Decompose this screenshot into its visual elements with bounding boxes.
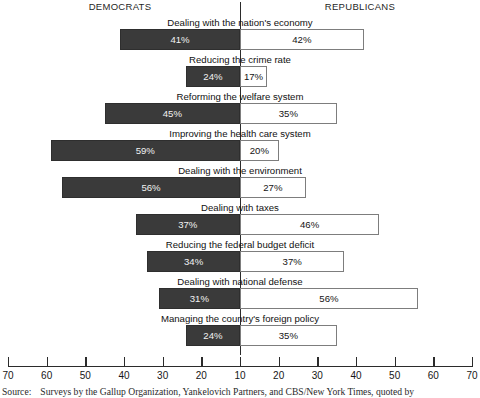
bar-value-democrats: 24% — [203, 331, 222, 341]
bar-democrats: 37% — [136, 214, 240, 235]
x-axis-tick-label: 60 — [41, 370, 52, 381]
bar-republicans: 37% — [240, 251, 344, 272]
bar-band: 24%17% — [0, 66, 480, 88]
diverging-bar-chart: DEMOCRATS REPUBLICANS Dealing with the n… — [0, 0, 480, 398]
bar-value-democrats: 34% — [184, 257, 203, 267]
row-label: Dealing with taxes — [0, 201, 480, 214]
row-label: Managing the country's foreign policy — [0, 312, 480, 325]
chart-rows: Dealing with the nation's economy41%42%R… — [0, 16, 480, 349]
source-text: Surveys by the Gallup Organization, Yank… — [40, 386, 414, 397]
x-axis-tick-label: 40 — [118, 370, 129, 381]
bar-band: 37%46% — [0, 214, 480, 236]
chart-row: Reforming the welfare system45%35% — [0, 90, 480, 127]
chart-row: Reducing the crime rate24%17% — [0, 53, 480, 90]
row-label: Dealing with the nation's economy — [0, 16, 480, 29]
x-axis-tick — [124, 357, 125, 367]
bar-democrats: 56% — [62, 177, 240, 198]
chart-row: Reducing the federal budget deficit34%37… — [0, 238, 480, 275]
row-label: Improving the health care system — [0, 127, 480, 140]
x-axis: 70605040302010203040506070 — [0, 356, 480, 378]
chart-row: Dealing with national defense31%56% — [0, 275, 480, 312]
bar-republicans: 46% — [240, 214, 379, 235]
x-axis-tick-label: 50 — [389, 370, 400, 381]
bar-value-democrats: 45% — [163, 109, 182, 119]
x-axis-tick-label: 30 — [312, 370, 323, 381]
bar-value-democrats: 24% — [203, 72, 222, 82]
x-axis-tick — [279, 357, 280, 367]
x-axis-tick — [163, 357, 164, 367]
x-axis-tick-label: 40 — [350, 370, 361, 381]
row-label: Dealing with national defense — [0, 275, 480, 288]
bar-value-democrats: 56% — [141, 183, 160, 193]
x-axis-tick-label: 60 — [428, 370, 439, 381]
x-axis-tick — [472, 357, 473, 367]
bar-band: 31%56% — [0, 288, 480, 310]
chart-row: Dealing with the nation's economy41%42% — [0, 16, 480, 53]
bar-band: 56%27% — [0, 177, 480, 199]
chart-row: Dealing with the environment56%27% — [0, 164, 480, 201]
bar-republicans: 20% — [240, 140, 279, 161]
row-label: Reducing the federal budget deficit — [0, 238, 480, 251]
bar-democrats: 45% — [105, 103, 240, 124]
bar-value-democrats: 59% — [136, 146, 155, 156]
x-axis-tick-label: 10 — [234, 370, 245, 381]
bar-democrats: 24% — [186, 66, 240, 87]
bar-value-democrats: 37% — [178, 220, 197, 230]
bar-republicans: 42% — [240, 29, 364, 50]
x-axis-tick — [85, 357, 86, 367]
bar-democrats: 24% — [186, 325, 240, 346]
bar-band: 59%20% — [0, 140, 480, 162]
bar-democrats: 59% — [51, 140, 240, 161]
source-note: Source:Surveys by the Gallup Organizatio… — [2, 386, 480, 397]
bar-republicans: 35% — [240, 103, 337, 124]
bar-republicans: 17% — [240, 66, 267, 87]
legend-item-democrats: DEMOCRATS — [0, 1, 240, 12]
row-label: Reducing the crime rate — [0, 53, 480, 66]
bar-value-democrats: 41% — [170, 35, 189, 45]
chart-row: Improving the health care system59%20% — [0, 127, 480, 164]
bar-value-republicans: 20% — [250, 146, 269, 156]
x-axis-tick — [240, 357, 241, 367]
bar-republicans: 35% — [240, 325, 337, 346]
bar-republicans: 56% — [240, 288, 418, 309]
bar-democrats: 34% — [147, 251, 240, 272]
bar-value-republicans: 35% — [279, 109, 298, 119]
x-axis-tick — [47, 357, 48, 367]
bar-band: 41%42% — [0, 29, 480, 51]
bar-value-republicans: 35% — [279, 331, 298, 341]
bar-republicans: 27% — [240, 177, 306, 198]
x-axis-tick-label: 30 — [157, 370, 168, 381]
x-axis-tick — [356, 357, 357, 367]
bar-value-republicans: 37% — [283, 257, 302, 267]
bar-value-republicans: 17% — [244, 72, 263, 82]
x-axis-tick — [433, 357, 434, 367]
bar-democrats: 41% — [120, 29, 240, 50]
source-label: Source: — [2, 386, 31, 397]
legend-item-republicans: REPUBLICANS — [240, 1, 480, 12]
bar-value-republicans: 46% — [300, 220, 319, 230]
row-label: Reforming the welfare system — [0, 90, 480, 103]
x-axis-tick-label: 50 — [80, 370, 91, 381]
x-axis-tick — [201, 357, 202, 367]
x-axis-tick — [395, 357, 396, 367]
bar-value-democrats: 31% — [190, 294, 209, 304]
row-label: Dealing with the environment — [0, 164, 480, 177]
x-axis-tick — [317, 357, 318, 367]
bar-value-republicans: 56% — [319, 294, 338, 304]
x-axis-tick-label: 70 — [466, 370, 477, 381]
bar-band: 34%37% — [0, 251, 480, 273]
x-axis-tick-label: 70 — [2, 370, 13, 381]
bar-band: 45%35% — [0, 103, 480, 125]
bar-value-republicans: 42% — [292, 35, 311, 45]
x-axis-tick-label: 20 — [196, 370, 207, 381]
chart-row: Dealing with taxes37%46% — [0, 201, 480, 238]
x-axis-tick-label: 20 — [273, 370, 284, 381]
bar-democrats: 31% — [159, 288, 240, 309]
bar-value-republicans: 27% — [263, 183, 282, 193]
chart-row: Managing the country's foreign policy24%… — [0, 312, 480, 349]
bar-band: 24%35% — [0, 325, 480, 347]
x-axis-tick — [8, 357, 9, 367]
